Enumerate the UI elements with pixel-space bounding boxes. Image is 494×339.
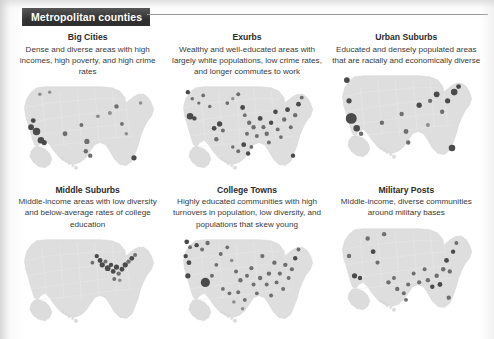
map-county-marker <box>243 298 247 302</box>
map-county-marker <box>269 293 273 297</box>
map-county-marker <box>283 262 287 266</box>
map-hawaii-inset <box>380 299 382 301</box>
map-hawaii-inset <box>227 315 230 318</box>
panel-urban-suburbs: Urban SuburbsEducated and densely popula… <box>327 30 486 183</box>
map-county-marker <box>278 271 282 275</box>
map-county-marker <box>221 287 225 291</box>
map-county-marker <box>208 105 212 109</box>
panel-military-posts: Military PostsMiddle-income, diverse com… <box>327 183 486 336</box>
map-county-marker <box>289 125 293 129</box>
map-county-marker <box>344 77 350 83</box>
map-hawaii-inset <box>386 151 389 154</box>
map-hawaii-inset <box>224 313 226 315</box>
map-county-marker <box>354 125 361 132</box>
map-county-marker <box>186 90 190 94</box>
panel-exurbs: ExurbsWealthy and well-educated areas wi… <box>167 30 326 183</box>
map-county-marker <box>449 145 456 152</box>
map-county-marker <box>225 245 229 249</box>
map-county-marker <box>212 126 217 131</box>
map-county-marker <box>138 102 142 106</box>
map-county-marker <box>287 276 291 280</box>
map-county-marker <box>404 297 408 301</box>
map-county-marker <box>451 249 455 253</box>
panel-big-cities: Big CitiesDense and diverse areas with h… <box>8 30 167 183</box>
map-county-marker <box>62 132 67 137</box>
panel-description-urban-suburbs: Educated and densely populated areas tha… <box>327 44 486 66</box>
map-county-marker <box>448 269 452 273</box>
map-county-marker <box>90 261 94 265</box>
map-hawaii-inset <box>221 158 223 160</box>
map-county-marker <box>243 113 247 117</box>
map-county-marker <box>347 98 352 103</box>
map-county-marker <box>114 264 119 269</box>
map-county-marker <box>96 115 100 119</box>
map-county-marker <box>300 96 304 100</box>
map-county-marker <box>252 282 256 286</box>
map-county-marker <box>190 97 194 101</box>
panel-title-big-cities: Big Cities <box>68 32 108 43</box>
map-hawaii-inset <box>231 317 233 319</box>
map-county-marker <box>32 128 39 135</box>
map-hawaii-inset <box>221 310 223 312</box>
map-county-marker <box>38 93 42 97</box>
map-county-marker <box>200 247 204 251</box>
panel-description-exurbs: Wealthy and well-educated areas with lar… <box>167 44 326 77</box>
map-alaska-inset <box>348 136 370 157</box>
panel-description-military-posts: Middle-income, diverse communities aroun… <box>327 196 486 218</box>
map-county-marker <box>241 143 246 148</box>
map-county-marker <box>99 262 104 267</box>
map-county-marker <box>185 273 190 278</box>
map-county-marker <box>112 277 116 281</box>
map-county-marker <box>435 273 439 277</box>
map-county-marker <box>276 128 280 132</box>
panel-middle-suburbs: Middle SuburbsMiddle-income areas with l… <box>8 183 167 336</box>
section-header: Metropolitan counties <box>22 8 488 28</box>
map-county-marker <box>192 116 196 120</box>
map-county-marker <box>236 290 240 294</box>
map-hawaii-inset <box>65 160 67 162</box>
panel-title-middle-suburbs: Middle Suburbs <box>55 185 119 196</box>
map-county-marker <box>84 139 89 144</box>
map-county-marker <box>260 254 264 258</box>
map-county-marker <box>184 239 189 244</box>
map-county-marker <box>392 276 396 280</box>
map-county-marker <box>400 112 404 116</box>
map-county-marker <box>225 101 229 105</box>
map-county-marker <box>261 125 265 129</box>
map-county-marker <box>236 150 240 154</box>
map-hawaii-inset <box>386 303 389 306</box>
map-county-marker <box>279 135 283 139</box>
map-hawaii-inset <box>383 149 385 151</box>
map-county-marker <box>371 249 376 254</box>
map-county-marker <box>245 132 249 136</box>
map-hawaii-inset <box>71 165 73 167</box>
map-county-marker <box>296 247 300 251</box>
map-county-marker <box>133 253 137 257</box>
map-county-marker <box>30 118 35 123</box>
map-county-marker <box>441 267 445 271</box>
map-county-marker <box>258 116 263 121</box>
map-county-marker <box>272 260 276 264</box>
panel-description-big-cities: Dense and diverse areas with high income… <box>8 44 167 77</box>
map-county-marker <box>231 145 235 149</box>
map-hawaii-inset <box>74 166 78 170</box>
map-county-marker <box>205 240 209 244</box>
map-county-marker <box>451 89 458 96</box>
section-banner: Metropolitan counties <box>22 8 150 26</box>
map-hawaii-inset <box>68 315 71 318</box>
map-county-marker <box>221 129 225 133</box>
map-county-marker <box>79 123 83 127</box>
map-county-marker <box>445 98 450 103</box>
map-hawaii-inset <box>393 308 397 312</box>
map-county-marker <box>265 132 269 136</box>
map-alaska-inset <box>348 288 370 309</box>
map-county-marker <box>455 240 459 244</box>
map-county-marker <box>197 102 200 105</box>
united-states-map-exurbs <box>173 79 321 171</box>
map-county-marker <box>228 291 232 295</box>
map-county-marker <box>188 245 192 249</box>
map-county-marker <box>346 113 357 124</box>
united-states-map-college-towns <box>173 232 321 324</box>
map-county-marker <box>434 91 440 97</box>
map-county-marker <box>406 282 410 286</box>
